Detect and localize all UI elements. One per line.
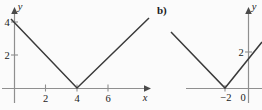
figure-canvas: 4 2 2 4 6 y x xyxy=(0,0,262,110)
figure-page: 4 2 2 4 6 y x xyxy=(0,0,262,110)
left-x-tick-label-6: 6 xyxy=(105,93,110,104)
left-x-axis-arrowhead xyxy=(144,85,151,92)
left-x-axis-label: x xyxy=(142,92,148,103)
left-y-tick-label-4: 4 xyxy=(4,17,10,28)
left-x-tick-label-2: 2 xyxy=(43,93,48,104)
figure-svg: 4 2 2 4 6 y x xyxy=(0,0,262,110)
left-y-axis-label: y xyxy=(17,1,23,12)
left-y-tick-label-2: 2 xyxy=(4,50,9,61)
right-chart: 2 −2 0 y xyxy=(171,1,262,103)
left-chart: 4 2 2 4 6 y x xyxy=(2,1,151,104)
left-x-tick-label-4: 4 xyxy=(74,93,80,104)
right-x-tick-label-neg2: −2 xyxy=(220,92,231,103)
right-y-tick-label-2: 2 xyxy=(238,47,243,58)
right-x-tick-label-0: 0 xyxy=(240,92,245,103)
left-curve-abs xyxy=(11,18,149,88)
right-y-axis-label: y xyxy=(251,1,257,12)
panel-label-b: b) xyxy=(157,5,167,16)
